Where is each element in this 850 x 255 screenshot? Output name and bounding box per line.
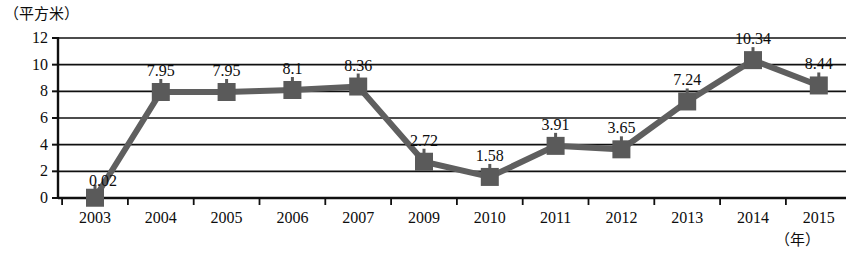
y-axis-tick-4: 4 (14, 137, 48, 153)
y-axis-tick-8: 8 (14, 83, 48, 99)
data-label-2014: 10.34 (723, 31, 783, 47)
data-label-2015: 8.44 (789, 56, 849, 72)
data-label-2012: 3.65 (591, 120, 651, 136)
x-axis-tick-2005: 2005 (194, 210, 260, 226)
x-axis-tick-2009: 2009 (391, 210, 457, 226)
y-axis-tick-10: 10 (14, 57, 48, 73)
y-axis-tick-0: 0 (14, 190, 48, 206)
y-axis-tick-6: 6 (14, 110, 48, 126)
data-label-2004: 7.95 (131, 63, 191, 79)
x-axis-tick-2015: 2015 (786, 210, 850, 226)
y-axis-tick-12: 12 (14, 30, 48, 46)
x-axis-tick-2013: 2013 (654, 210, 720, 226)
x-axis-tick-2007: 2007 (325, 210, 391, 226)
data-label-2006: 8.1 (262, 61, 322, 77)
chart-container: （平方米） （年） 024681012 20032004200520062007… (0, 0, 850, 255)
x-axis-tick-2003: 2003 (62, 210, 128, 226)
data-label-2007: 8.36 (328, 58, 388, 74)
y-axis-tick-2: 2 (14, 163, 48, 179)
data-label-2010: 1.58 (460, 148, 520, 164)
data-label-2009: 2.72 (394, 133, 454, 149)
data-label-2005: 7.95 (197, 63, 257, 79)
x-axis-tick-2006: 2006 (259, 210, 325, 226)
x-axis-tick-2011: 2011 (523, 210, 589, 226)
data-label-2003: 0.02 (73, 173, 133, 189)
data-label-2013: 7.24 (657, 72, 717, 88)
data-label-2011: 3.91 (526, 117, 586, 133)
x-axis-tick-2004: 2004 (128, 210, 194, 226)
x-axis-tick-2012: 2012 (588, 210, 654, 226)
x-axis-tick-2014: 2014 (720, 210, 786, 226)
x-axis-tick-2010: 2010 (457, 210, 523, 226)
